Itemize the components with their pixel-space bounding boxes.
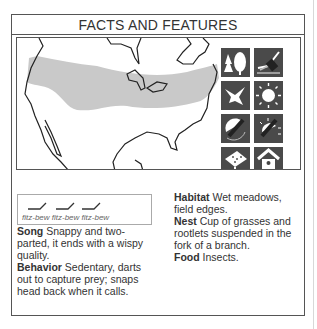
daytime-icon xyxy=(254,81,283,110)
migration-icon xyxy=(221,114,250,143)
nest-fact: Nest Cup of grasses and rootlets suspend… xyxy=(174,215,302,251)
marsh-habitat-icon xyxy=(254,48,283,77)
habitat-fact: Habitat Wet meadows, field edges. xyxy=(174,191,302,215)
feature-icons-grid xyxy=(221,48,285,170)
habitat-label: Habitat xyxy=(174,191,210,203)
behavior-label: Behavior xyxy=(17,261,62,273)
song-sonogram-icon xyxy=(26,199,116,211)
facts-panel: FACTS AND FEATURES xyxy=(11,14,305,316)
flight-icon xyxy=(221,81,250,110)
song-caption: fitz-bew fitz-bew fitz-bew xyxy=(22,213,109,222)
summer-range-icon xyxy=(254,114,283,143)
song-notation: fitz-bew fitz-bew fitz-bew xyxy=(17,194,152,225)
food-text: Insects. xyxy=(200,251,239,263)
page-edge-rule xyxy=(313,0,314,329)
song-label: Song xyxy=(17,225,43,237)
range-map xyxy=(16,37,301,170)
song-fact: Song Snappy and two-parted, it ends with… xyxy=(17,225,157,261)
panel-title: FACTS AND FEATURES xyxy=(12,15,304,35)
feeder-icon xyxy=(221,147,250,170)
food-fact: Food Insects. xyxy=(174,251,302,263)
food-label: Food xyxy=(174,251,200,263)
nest-label: Nest xyxy=(174,215,197,227)
behavior-fact: Behavior Sedentary, darts out to capture… xyxy=(17,261,157,297)
forest-habitat-icon xyxy=(221,48,250,77)
left-facts: Song Snappy and two-parted, it ends with… xyxy=(17,225,157,297)
birdhouse-icon xyxy=(254,147,283,170)
right-facts: Habitat Wet meadows, field edges. Nest C… xyxy=(174,191,302,263)
